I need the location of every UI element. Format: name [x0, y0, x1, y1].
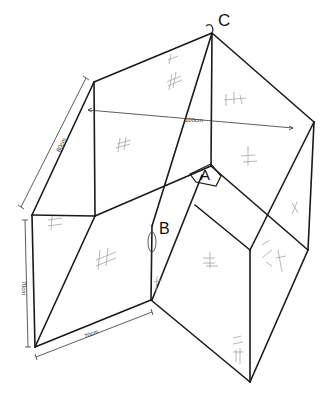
main-edges: [32, 33, 314, 382]
label-c-hook: [206, 25, 213, 33]
dimension-top-span: 100cm: [185, 117, 203, 123]
label-a: A: [200, 167, 210, 182]
label-c: C: [218, 12, 230, 29]
label-b: B: [159, 221, 170, 237]
dimension-lines: [18, 76, 293, 360]
diagram-canvas: [0, 0, 332, 398]
dimension-left-height: 70cm: [21, 281, 27, 296]
